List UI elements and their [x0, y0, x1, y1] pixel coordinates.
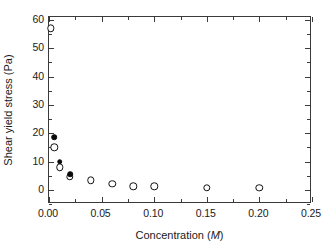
x-axis-label-unit-symbol: M — [211, 229, 220, 241]
plot-frame — [48, 16, 311, 203]
y-axis-minor-tick — [49, 62, 52, 63]
y-axis-tick — [305, 20, 310, 21]
y-axis-tick — [305, 133, 310, 134]
x-axis-label: Concentration (M) — [48, 229, 311, 241]
data-point-filled — [67, 171, 73, 177]
y-axis-minor-tick — [49, 204, 52, 205]
y-axis-minor-tick — [307, 34, 310, 35]
x-axis-tick — [259, 17, 260, 22]
y-axis-tick — [305, 190, 310, 191]
y-axis-tick-label: 10 — [18, 155, 44, 167]
x-axis-minor-tick — [75, 199, 76, 202]
y-axis-tick — [49, 77, 54, 78]
y-axis-minor-tick — [49, 119, 52, 120]
x-axis-minor-tick — [286, 199, 287, 202]
y-axis-minor-tick — [307, 147, 310, 148]
y-axis-tick-label: 40 — [18, 70, 44, 82]
x-axis-minor-tick — [181, 199, 182, 202]
y-axis-tick-label: 0 — [18, 183, 44, 195]
x-axis-tick — [312, 197, 313, 202]
data-point-open — [129, 183, 136, 190]
y-axis-tick — [49, 162, 54, 163]
data-point-open — [87, 177, 94, 184]
y-axis-minor-tick — [307, 176, 310, 177]
data-point-open — [108, 180, 115, 187]
x-axis-tick-label: 0.20 — [248, 207, 268, 219]
data-point-open — [47, 25, 54, 32]
y-axis-minor-tick — [307, 119, 310, 120]
x-axis-minor-tick — [286, 17, 287, 20]
data-point-open — [51, 144, 58, 151]
y-axis-tick — [305, 48, 310, 49]
y-axis-minor-tick — [307, 91, 310, 92]
y-axis-tick — [305, 162, 310, 163]
x-axis-tick — [49, 197, 50, 202]
x-axis-tick — [207, 197, 208, 202]
data-point-filled — [57, 159, 63, 165]
x-axis-label-text: Concentration ( — [135, 229, 210, 241]
data-point-filled — [51, 135, 57, 141]
y-axis-label: Shear yield stress (Pa) — [2, 54, 14, 165]
x-axis-tick-label: 0.15 — [196, 207, 216, 219]
x-axis-tick — [102, 17, 103, 22]
x-axis-minor-tick — [128, 199, 129, 202]
x-axis-label-tail: ) — [220, 229, 224, 241]
y-axis-minor-tick — [307, 62, 310, 63]
x-axis-tick-label: 0.10 — [143, 207, 163, 219]
x-axis-tick — [207, 17, 208, 22]
x-axis-minor-tick — [233, 199, 234, 202]
y-axis-minor-tick — [307, 204, 310, 205]
x-axis-minor-tick — [75, 17, 76, 20]
x-axis-tick — [154, 17, 155, 22]
y-axis-minor-tick — [49, 176, 52, 177]
y-axis-tick — [305, 77, 310, 78]
x-axis-minor-tick — [181, 17, 182, 20]
y-axis-label-container: Shear yield stress (Pa) — [0, 16, 16, 203]
y-axis-tick — [305, 105, 310, 106]
x-axis-tick-label: 0.05 — [91, 207, 111, 219]
x-axis-tick-label: 0.25 — [301, 207, 321, 219]
x-axis-tick — [259, 197, 260, 202]
x-axis-tick-label: 0.00 — [38, 207, 58, 219]
data-point-open — [203, 184, 210, 191]
data-point-open — [256, 184, 263, 191]
y-axis-tick-label: 50 — [18, 41, 44, 53]
x-axis-tick — [154, 197, 155, 202]
x-axis-tick — [312, 17, 313, 22]
y-axis-tick-label: 60 — [18, 13, 44, 25]
data-point-open — [150, 183, 157, 190]
x-axis-minor-tick — [233, 17, 234, 20]
y-axis-tick — [49, 105, 54, 106]
y-axis-minor-tick — [49, 34, 52, 35]
data-point-open — [56, 163, 63, 170]
chart-figure: Shear yield stress (Pa) Concentration (M… — [0, 0, 329, 250]
y-axis-tick — [49, 20, 54, 21]
y-axis-tick-label: 20 — [18, 126, 44, 138]
y-axis-minor-tick — [49, 91, 52, 92]
y-axis-tick-label: 30 — [18, 98, 44, 110]
y-axis-tick — [49, 48, 54, 49]
y-axis-tick — [49, 190, 54, 191]
x-axis-minor-tick — [128, 17, 129, 20]
x-axis-tick — [102, 197, 103, 202]
plot-area — [49, 17, 310, 202]
